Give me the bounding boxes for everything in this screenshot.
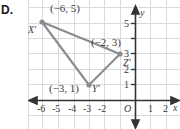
vertex-y-prime bbox=[86, 82, 91, 87]
x-tick-label--4: -4 bbox=[68, 104, 76, 114]
x-tick-label--2: -2 bbox=[98, 104, 106, 114]
coordinate-plane: (−6, 5) X' (−3, 1) Y' (−2, 3) Z' -6 -5 -… bbox=[28, 0, 180, 129]
x-tick-label--5: -5 bbox=[52, 104, 60, 114]
origin-label: O bbox=[124, 104, 131, 114]
vertex-label-z-prime-coord: (−2, 3) bbox=[91, 37, 121, 48]
x-tick-label-1: 1 bbox=[148, 104, 153, 114]
y-tick-label-1: 1 bbox=[124, 80, 129, 90]
vertex-label-y-prime-name: Y' bbox=[92, 84, 100, 94]
choice-letter: D. bbox=[1, 3, 13, 17]
x-tick-label--3: -3 bbox=[83, 104, 91, 114]
y-axis-name: y bbox=[140, 8, 144, 18]
y-axis-ticks bbox=[131, 24, 135, 85]
answer-choice-graph-panel: D. bbox=[0, 0, 180, 129]
x-axis-name: x bbox=[173, 103, 177, 113]
x-tick-label-2: 2 bbox=[163, 104, 168, 114]
vertex-label-x-prime-coord: (−6, 5) bbox=[50, 3, 80, 14]
y-tick-label-5: 5 bbox=[124, 19, 129, 29]
vertex-label-x-prime-name: X' bbox=[28, 25, 36, 35]
vertex-z-prime bbox=[117, 51, 122, 56]
vertex-label-y-prime-coord: (−3, 1) bbox=[49, 83, 79, 94]
y-tick-label-2: 2 bbox=[124, 65, 129, 75]
vertex-x-prime bbox=[39, 19, 44, 24]
y-axis bbox=[132, 6, 139, 128]
y-tick-label-3: 3 bbox=[124, 49, 129, 59]
x-tick-label--6: -6 bbox=[37, 104, 45, 114]
